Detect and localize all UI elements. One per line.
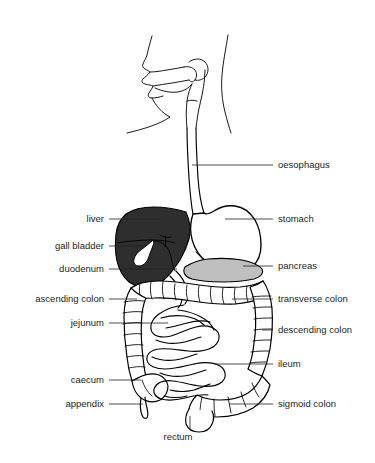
label-ileum: ileum xyxy=(278,358,301,369)
label-pancreas: pancreas xyxy=(278,260,317,271)
label-liver: liver xyxy=(87,213,104,224)
label-caecum: caecum xyxy=(71,374,104,385)
label-appendix: appendix xyxy=(65,398,104,409)
label-rectum: rectum xyxy=(163,431,192,442)
pancreas-group xyxy=(184,258,263,282)
label-jejunum: jejunum xyxy=(70,317,104,328)
label-ascending-colon: ascending colon xyxy=(35,293,104,304)
label-transverse-colon: transverse colon xyxy=(278,293,348,304)
label-oesophagus: oesophagus xyxy=(278,159,330,170)
label-descending-colon: descending colon xyxy=(278,324,352,335)
label-stomach: stomach xyxy=(278,213,314,224)
label-gall-bladder: gall bladder xyxy=(55,240,104,251)
label-sigmoid-colon: sigmoid colon xyxy=(278,398,336,409)
digestive-system-figure: oesophagus stomach pancreas transverse c… xyxy=(0,0,375,463)
label-duodenum: duodenum xyxy=(59,263,104,274)
digestive-system-diagram: oesophagus stomach pancreas transverse c… xyxy=(0,0,375,463)
pancreas-body xyxy=(184,258,263,282)
